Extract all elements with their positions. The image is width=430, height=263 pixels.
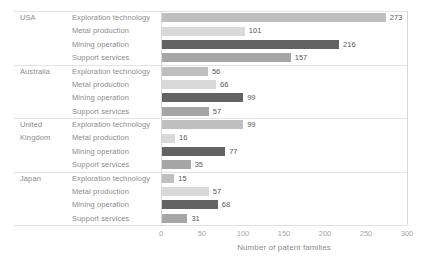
category-label: Support services — [72, 158, 129, 171]
category-label: Mining operation — [72, 38, 129, 51]
category-label: Exploration technology — [72, 172, 150, 185]
x-axis-line — [14, 225, 407, 226]
value-label: 273 — [390, 11, 403, 24]
category-label: Exploration technology — [72, 11, 150, 24]
value-label: 15 — [178, 172, 186, 185]
value-label: 216 — [343, 38, 356, 51]
group-label: USA — [20, 11, 68, 24]
value-label: 31 — [191, 212, 199, 225]
value-label: 57 — [213, 105, 221, 118]
category-label: Support services — [72, 105, 129, 118]
value-label: 99 — [247, 91, 255, 104]
x-tick-label: 200 — [310, 229, 340, 238]
bar — [162, 80, 216, 89]
category-label: Mining operation — [72, 145, 129, 158]
bar — [162, 53, 291, 62]
bar — [162, 160, 191, 169]
bar — [162, 120, 243, 129]
x-tick-label: 150 — [269, 229, 299, 238]
value-label: 16 — [179, 131, 187, 144]
x-tick-label: 300 — [392, 229, 422, 238]
value-label: 35 — [195, 158, 203, 171]
x-tick-label: 100 — [228, 229, 258, 238]
x-tick-label: 250 — [351, 229, 381, 238]
value-label: 157 — [295, 51, 308, 64]
x-tick-label: 0 — [146, 229, 176, 238]
group-label: Japan — [20, 172, 68, 185]
category-label: Metal production — [72, 131, 129, 144]
bar — [162, 13, 386, 22]
bar — [162, 40, 339, 49]
value-label: 77 — [229, 145, 237, 158]
category-label: Exploration technology — [72, 118, 150, 131]
bar — [162, 134, 175, 143]
bar — [162, 27, 245, 36]
category-label: Mining operation — [72, 91, 129, 104]
category-label: Support services — [72, 212, 129, 225]
value-label: 68 — [222, 198, 230, 211]
plot-right-border — [407, 11, 408, 225]
bar — [162, 93, 243, 102]
x-axis-title: Number of patent families — [161, 243, 407, 252]
plot-left-axis-line — [161, 11, 162, 225]
group-label: United Kingdom — [20, 118, 68, 145]
bar — [162, 200, 218, 209]
bar — [162, 67, 208, 76]
category-label: Metal production — [72, 24, 129, 37]
category-label: Exploration technology — [72, 65, 150, 78]
value-label: 101 — [249, 24, 262, 37]
bar — [162, 174, 174, 183]
category-label: Mining operation — [72, 198, 129, 211]
x-tick-label: 50 — [187, 229, 217, 238]
bar — [162, 187, 209, 196]
group-label: Australia — [20, 65, 68, 78]
bar — [162, 107, 209, 116]
value-label: 56 — [212, 65, 220, 78]
patent-families-bar-chart: Number of patent families USAExploration… — [0, 0, 430, 263]
bar — [162, 214, 187, 223]
category-label: Metal production — [72, 78, 129, 91]
value-label: 66 — [220, 78, 228, 91]
category-label: Metal production — [72, 185, 129, 198]
bar — [162, 147, 225, 156]
value-label: 57 — [213, 185, 221, 198]
value-label: 99 — [247, 118, 255, 131]
category-label: Support services — [72, 51, 129, 64]
